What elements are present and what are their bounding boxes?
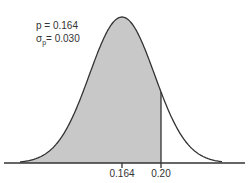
p-annotation: p = 0.164: [36, 20, 78, 31]
tick-label-mean: 0.164: [109, 168, 134, 179]
sigma-annotation: σp= 0.030: [36, 33, 80, 46]
tick-label-cutoff: 0.20: [151, 168, 170, 179]
sigma-value: = 0.030: [46, 33, 80, 44]
